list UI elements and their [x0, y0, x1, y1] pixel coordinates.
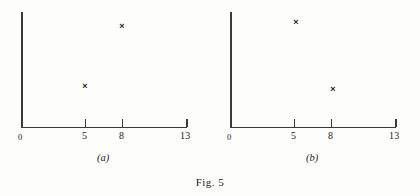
y-axis-b — [230, 12, 232, 128]
figure-fig-5: 0 5 8 13 × × (a) 0 5 8 13 × × (b) Fig. 5 — [0, 0, 420, 196]
x-tick-label-5-a: 5 — [82, 131, 87, 141]
x-tick-label-5-b: 5 — [291, 131, 296, 141]
panel-label-a: (a) — [97, 152, 109, 163]
data-point-a-1: × — [82, 82, 87, 91]
x-tick-8-b — [331, 119, 333, 127]
data-point-b-1: × — [293, 18, 298, 27]
chart-panel-b: 0 5 8 13 × × (b) — [209, 0, 419, 196]
x-tick-0-a — [21, 119, 23, 127]
x-tick-13-a — [186, 119, 188, 127]
figure-caption: Fig. 5 — [0, 176, 420, 188]
y-axis-a — [21, 12, 23, 128]
x-tick-label-0-b: 0 — [227, 132, 232, 142]
panel-label-b: (b) — [306, 152, 318, 163]
x-tick-0-b — [230, 119, 232, 127]
x-tick-label-13-b: 13 — [389, 131, 400, 141]
x-tick-5-b — [294, 119, 296, 127]
x-tick-13-b — [395, 119, 397, 127]
chart-panel-a: 0 5 8 13 × × (a) — [0, 0, 210, 196]
data-point-b-2: × — [330, 85, 335, 94]
x-tick-label-0-a: 0 — [18, 132, 23, 142]
data-point-a-2: × — [119, 22, 124, 31]
x-tick-8-a — [122, 119, 124, 127]
x-tick-5-a — [85, 119, 87, 127]
x-tick-label-13-a: 13 — [180, 131, 191, 141]
x-axis-b — [230, 127, 396, 129]
x-axis-a — [21, 127, 187, 129]
x-tick-label-8-a: 8 — [119, 131, 124, 141]
x-tick-label-8-b: 8 — [328, 131, 333, 141]
